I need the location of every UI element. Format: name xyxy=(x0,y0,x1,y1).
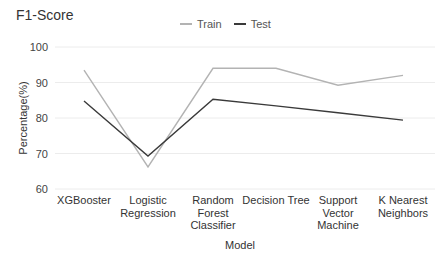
x-tick-label: Decision Tree xyxy=(242,194,309,206)
y-tick-label: 80 xyxy=(36,112,48,124)
x-tick-label: K NearestNeighbors xyxy=(378,194,429,219)
y-tick-label: 90 xyxy=(36,77,48,89)
series-line-test xyxy=(84,99,403,156)
y-axis-label: Percentage(%) xyxy=(17,81,29,154)
x-tick-label: RandomForestClassifier xyxy=(190,194,236,231)
x-tick-label: LogisticRegression xyxy=(120,194,176,219)
x-tick-label: XGBooster xyxy=(57,194,111,206)
x-axis-label: Model xyxy=(225,239,255,251)
y-tick-label: 60 xyxy=(36,183,48,195)
line-chart: 60708090100Percentage(%)XGBoosterLogisti… xyxy=(0,0,448,264)
y-tick-label: 100 xyxy=(30,41,48,53)
x-tick-label: SupportVectorMachine xyxy=(317,194,359,231)
y-tick-label: 70 xyxy=(36,148,48,160)
